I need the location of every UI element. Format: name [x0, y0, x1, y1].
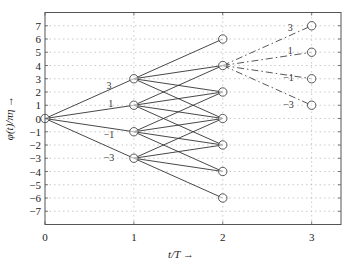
- transition-edge: [134, 39, 223, 79]
- x-tick-label: 0: [42, 231, 48, 243]
- transition-edge: [45, 79, 134, 119]
- y-axis-label: φ(t)/πη →: [3, 96, 16, 140]
- y-tick-label: −3: [29, 152, 41, 164]
- transition-edge: [45, 119, 134, 132]
- state-node: [219, 114, 227, 122]
- plot-frame: [45, 13, 341, 225]
- state-node: [219, 141, 227, 149]
- y-tick-label: −7: [29, 205, 41, 217]
- x-tick-label: 1: [131, 231, 137, 243]
- y-tick-label: 6: [36, 33, 42, 45]
- transition-edge: [223, 26, 312, 66]
- transition-edge: [134, 145, 223, 158]
- state-node: [130, 75, 138, 83]
- state-node: [219, 194, 227, 202]
- transition-edge: [223, 52, 312, 65]
- y-tick-label: −2: [29, 139, 41, 151]
- transition-edge: [134, 158, 223, 198]
- y-tick-label: 3: [36, 73, 42, 85]
- y-tick-label: −1: [29, 126, 41, 138]
- branch-label: −1: [104, 129, 115, 140]
- y-tick-label: −5: [29, 179, 41, 191]
- state-node: [307, 101, 315, 109]
- y-tick-label: 4: [36, 60, 42, 72]
- state-node: [219, 35, 227, 43]
- y-tick-label: −6: [29, 192, 41, 204]
- branch-label: 1: [108, 98, 113, 109]
- state-node: [130, 128, 138, 136]
- branch-label: 3: [107, 80, 112, 91]
- transition-edge: [223, 66, 312, 106]
- y-tick-label: −4: [29, 166, 41, 178]
- transition-edges: [45, 26, 312, 198]
- transition-edge: [134, 158, 223, 171]
- y-tick-label: 2: [36, 86, 42, 98]
- y-tick-label: 5: [36, 46, 42, 58]
- transition-edge: [45, 105, 134, 118]
- y-tick-label: 1: [36, 99, 42, 111]
- axis-ticks: −7−6−5−4−3−2−1012345670123: [29, 13, 341, 243]
- state-node: [307, 48, 315, 56]
- x-tick-label: 3: [309, 231, 315, 243]
- branch-label: −1: [283, 72, 294, 83]
- branch-label: −3: [283, 99, 294, 110]
- transition-edge: [134, 92, 223, 132]
- transition-edge: [134, 66, 223, 106]
- transition-edge: [134, 92, 223, 105]
- y-tick-label: 0: [36, 113, 42, 125]
- transition-edge: [223, 66, 312, 79]
- grid-lines: [45, 13, 341, 225]
- branch-label: −3: [104, 152, 115, 163]
- transition-edge: [134, 119, 223, 159]
- x-axis-label: t/T →: [168, 248, 194, 260]
- state-node: [219, 167, 227, 175]
- phase-trellis-chart: 31−1−331−1−3 −7−6−5−4−3−2−1012345670123 …: [0, 0, 355, 268]
- branch-label: 1: [288, 45, 293, 56]
- y-tick-label: 7: [36, 20, 42, 32]
- state-node: [307, 75, 315, 83]
- branch-label: 3: [288, 22, 293, 33]
- transition-edge: [45, 119, 134, 159]
- state-node: [219, 88, 227, 96]
- state-node: [307, 22, 315, 30]
- x-tick-label: 2: [220, 231, 226, 243]
- transition-edge: [134, 66, 223, 79]
- state-node: [130, 101, 138, 109]
- transition-edge: [134, 119, 223, 132]
- state-node: [219, 61, 227, 69]
- state-node: [130, 154, 138, 162]
